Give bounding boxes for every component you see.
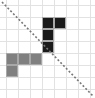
grid-cell-dark [54, 17, 66, 29]
grid-cell-dark [42, 41, 54, 53]
grid-figure [0, 0, 95, 98]
grid-cell-gray [6, 65, 18, 77]
filled-cells [0, 0, 95, 98]
grid-cell-gray [18, 53, 30, 65]
grid-cell-gray [6, 53, 18, 65]
grid-cell-gray [30, 53, 42, 65]
grid-cell-dark [42, 29, 54, 41]
grid-cell-dark [42, 17, 54, 29]
